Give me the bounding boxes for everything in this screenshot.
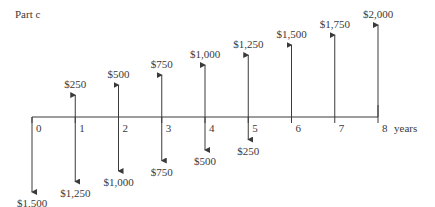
outflow-label-3: $750: [151, 166, 174, 178]
period-label-8: 8: [382, 122, 388, 134]
inflow-label-2: $500: [108, 68, 131, 80]
period-label-1: 1: [79, 122, 85, 134]
outflow-label-2: $1,000: [103, 176, 134, 188]
outflow-label-0: $1,500: [17, 197, 48, 207]
period-label-6: 6: [296, 122, 302, 134]
inflow-label-8: $2,000: [363, 8, 394, 20]
inflow-label-4: $1,000: [190, 48, 221, 60]
period-label-5: 5: [252, 122, 258, 134]
inflow-label-3: $750: [151, 58, 174, 70]
x-axis-label: years: [394, 122, 417, 134]
inflow-label-1: $250: [64, 78, 87, 90]
period-label-3: 3: [166, 122, 172, 134]
inflow-label-6: $1,500: [276, 28, 307, 40]
period-label-4: 4: [209, 122, 215, 134]
period-label-0: 0: [36, 122, 42, 134]
inflow-label-7: $1,750: [320, 18, 351, 30]
outflow-label-1: $1,250: [60, 187, 91, 199]
period-label-7: 7: [339, 122, 345, 134]
period-label-2: 2: [123, 122, 129, 134]
inflow-label-5: $1,250: [233, 38, 264, 50]
outflow-label-5: $250: [237, 145, 260, 157]
outflow-label-4: $500: [194, 155, 217, 167]
cash-flow-diagram: 012345678years$250$500$750$1,000$1,250$1…: [0, 0, 435, 207]
